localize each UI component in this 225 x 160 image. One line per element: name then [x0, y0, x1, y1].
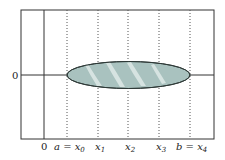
x-label-x2: x2: [125, 141, 136, 154]
y-axis-zero-label: 0: [12, 70, 18, 81]
x-label-a: a = x0: [54, 141, 85, 154]
x-label-x1: x1: [95, 141, 105, 154]
x-label-x3: x3: [156, 141, 167, 154]
x-label-b: b = x4: [176, 141, 207, 154]
x-label-0: 0: [41, 141, 47, 152]
x-axis-labels: 0 a = x0 x1 x2 x3 b = x4: [41, 141, 207, 154]
baguette-partition-diagram: 0 0 a = x0 x1 x2 x3 b = x4: [0, 0, 225, 160]
baguette-shape: [67, 62, 190, 89]
